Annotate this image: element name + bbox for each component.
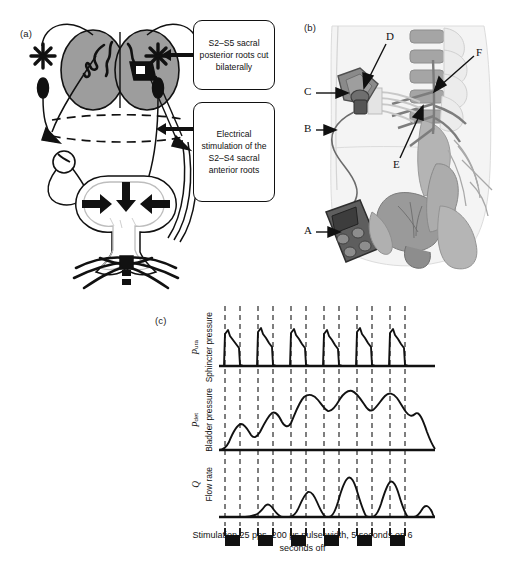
page-caption-cutoff: [6, 567, 518, 576]
panel-b-label-E: E: [393, 158, 400, 170]
interneuron-node: [53, 151, 75, 173]
flow-rate-symbol: Q: [191, 481, 203, 488]
sphincter-pressure-name: Sphincter pressure: [204, 312, 215, 382]
stimulation-parameters-caption: Stimulation 25 pps, 200 μs pulse width, …: [185, 529, 420, 555]
panel-b-label-C: C: [304, 85, 311, 97]
flow-rate-name: Flow rate: [204, 467, 215, 501]
flow-rate-label-group: Q Flow rate: [191, 467, 214, 501]
panel-c-traces-svg: [219, 304, 479, 549]
flow-rate-trace: [219, 478, 435, 517]
panel-a-neural-circuit-diagram: (a): [0, 0, 292, 292]
panel-b-label-F: F: [476, 46, 482, 58]
callout-arrow-stim: [165, 127, 195, 131]
sphincter-pressure-symbol: Pura: [191, 340, 203, 355]
plexus-ganglion: [120, 256, 133, 269]
callout-arrow-cut: [170, 53, 195, 57]
sphincter-pressure-label-group: Pura Sphincter pressure: [191, 312, 214, 382]
bladder-pressure-label-group: Pdet Bladder pressure: [191, 388, 214, 452]
dorsal-root-ganglion-left: [38, 78, 49, 98]
posterior-root-cut-marker-left: [31, 44, 55, 68]
panel-b-svg: [294, 0, 524, 292]
callout-posterior-rhizotomy: S2–S5 sacral posterior roots cut bilater…: [193, 20, 275, 90]
burst-marker-gridlines: [225, 306, 405, 526]
sphincter-pressure-trace: [219, 328, 435, 366]
bladder-pressure-name: Bladder pressure: [204, 388, 215, 452]
panel-b-label-A: A: [304, 224, 312, 236]
bladder-pressure-trace: [219, 391, 435, 450]
panel-c-letter: (c): [155, 315, 167, 326]
efferent-arrowhead-left: [42, 128, 60, 143]
callout-anterior-stimulation: Electrical stimulation of the S2–S4 sacr…: [193, 102, 275, 202]
panel-b-implant-anatomy-diagram: (b): [294, 0, 524, 292]
dorsal-root-ganglion-right: [153, 78, 164, 98]
bladder-pressure-symbol: Pdet: [191, 413, 203, 427]
urine-flow-arrow: [122, 270, 131, 285]
spinal-cord-outline: [61, 30, 179, 110]
panel-b-label-D: D: [386, 30, 394, 42]
panel-b-label-B: B: [304, 122, 311, 134]
anterior-root-stimulation-electrode: [130, 62, 156, 80]
panel-c-urodynamic-traces: (c) Pura Sphincter pressure Pdet Bladder…: [0, 292, 524, 579]
